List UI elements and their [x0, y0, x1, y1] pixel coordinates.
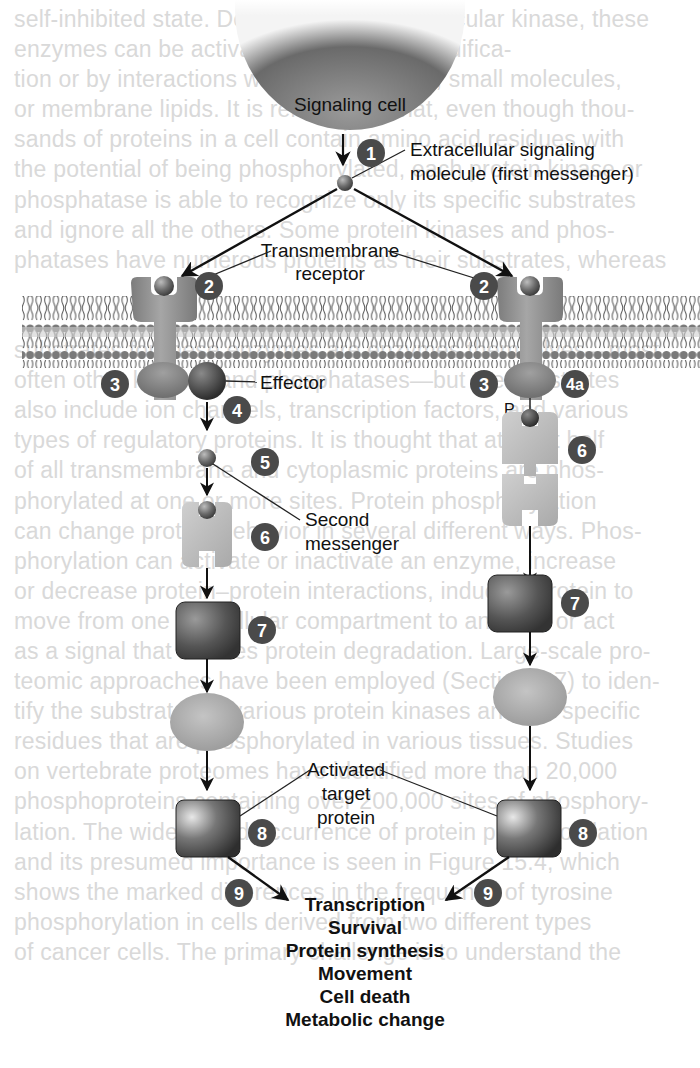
svg-text:6: 6: [577, 441, 587, 461]
svg-text:3: 3: [479, 375, 489, 395]
svg-text:4: 4: [232, 401, 242, 421]
left-intermediate-protein: [170, 693, 244, 751]
left-protein-7: [176, 602, 240, 659]
outcome-item: Survival: [328, 917, 402, 938]
svg-text:3: 3: [110, 375, 120, 395]
leader-line: [226, 381, 257, 382]
target-label-1: Activated: [307, 759, 385, 780]
step-badge-5: 5: [251, 448, 279, 476]
outcome-item: Metabolic change: [285, 1009, 444, 1030]
signaling-cell: Signaling cell: [230, 0, 470, 130]
step-badge-9-left: 9: [225, 879, 253, 907]
effector: [188, 362, 226, 400]
leader-line: [240, 770, 310, 816]
step-badge-3-left: 3: [101, 370, 129, 398]
svg-text:8: 8: [578, 824, 588, 844]
signaling-pathway-diagram: Signaling cell Extracellular signaling m…: [0, 0, 700, 1068]
step-badge-8-left: 8: [248, 819, 276, 847]
outcome-item: Movement: [318, 963, 413, 984]
step-badge-8-right: 8: [569, 819, 597, 847]
right-intermediate-protein: [493, 668, 567, 726]
svg-text:8: 8: [257, 824, 267, 844]
target-label-2: target: [322, 783, 371, 804]
step-badge-1: 1: [357, 139, 385, 167]
svg-text:1: 1: [366, 144, 376, 164]
svg-text:7: 7: [570, 594, 580, 614]
step-badge-3-right: 3: [470, 370, 498, 398]
step-badge-7-left: 7: [248, 616, 276, 644]
step-badge-4a: 4a: [561, 370, 589, 398]
step-badge-2-right: 2: [470, 272, 498, 300]
second-messenger-label-1: Second: [305, 509, 369, 530]
left-activated-target-protein: [176, 800, 240, 857]
leader-line: [380, 770, 497, 816]
plasma-membrane: [22, 296, 700, 368]
first-messenger-label-2: molecule (first messenger): [410, 163, 634, 184]
svg-text:9: 9: [483, 884, 493, 904]
svg-text:7: 7: [257, 621, 267, 641]
svg-text:5: 5: [260, 453, 270, 473]
outcome-item: Cell death: [320, 986, 411, 1007]
outcome-item: Transcription: [305, 894, 425, 915]
right-activated-target-protein: [497, 800, 561, 857]
left-kinase: [182, 501, 232, 567]
signaling-cell-label: Signaling cell: [294, 94, 406, 115]
first-messenger-label-1: Extracellular signaling: [410, 139, 595, 160]
target-label-3: protein: [317, 807, 375, 828]
receptor-label-1: Transmembrane: [261, 240, 400, 261]
step-badge-7-right: 7: [561, 589, 589, 617]
receptor-label-2: receptor: [295, 263, 365, 284]
right-protein-7: [488, 575, 552, 632]
effector-label: Effector: [260, 372, 326, 393]
cellular-outcomes-list: Transcription Survival Protein synthesis…: [285, 894, 444, 1030]
first-messenger-molecule: [337, 175, 353, 191]
svg-text:9: 9: [234, 884, 244, 904]
step-badge-9-right: 9: [474, 879, 502, 907]
step-badge-2-left: 2: [195, 272, 223, 300]
step-badge-4: 4: [223, 396, 251, 424]
step-badge-6-left: 6: [251, 523, 279, 551]
svg-text:2: 2: [479, 277, 489, 297]
svg-text:6: 6: [260, 528, 270, 548]
svg-text:2: 2: [204, 277, 214, 297]
arrow-to-right-receptor: [354, 189, 512, 276]
outcome-item: Protein synthesis: [286, 940, 444, 961]
second-messenger-label-2: messenger: [305, 533, 400, 554]
svg-text:4a: 4a: [566, 376, 584, 393]
step-badge-6-right: 6: [568, 436, 596, 464]
right-kinase-dimer: [502, 409, 558, 526]
